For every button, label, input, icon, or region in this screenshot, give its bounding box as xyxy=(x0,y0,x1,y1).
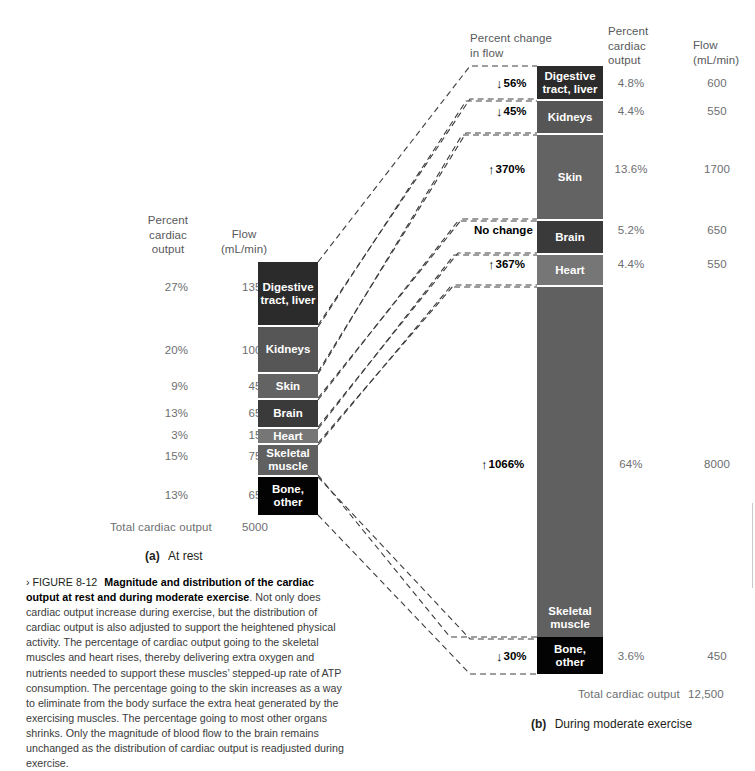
panel-b-change-bone-value: 30% xyxy=(504,650,527,662)
panel-b-flow-digestive: 600 xyxy=(693,77,741,89)
panel-a-segment-bone: Bone, other xyxy=(258,477,318,515)
arrow-down-icon: ↓ xyxy=(496,651,503,662)
panel-a-segment-brain: Brain xyxy=(258,400,318,427)
panel-a-percent-skeletal: 15% xyxy=(128,450,188,462)
panel-b-percent-heart: 4.4% xyxy=(608,258,654,270)
panel-b-flow-skin: 1700 xyxy=(693,163,741,175)
panel-b-total-flow: 12,500 xyxy=(688,688,744,700)
panel-a-percent-heart: 3% xyxy=(128,429,188,441)
panel-b-percent-skeletal: 64% xyxy=(608,458,654,470)
panel-b-change-brain-value: No change xyxy=(474,224,533,236)
panel-b-stacked-bar: Digestive tract, liver Kidneys Skin Brai… xyxy=(537,66,603,674)
panel-b-percent-brain: 5.2% xyxy=(608,224,654,236)
panel-b-change-heart-value: 367% xyxy=(496,258,525,270)
panel-b-segment-heart: Heart xyxy=(537,255,603,285)
panel-b-change-digestive: ↓ 56% xyxy=(496,77,527,89)
panel-b-change-skin: ↑ 370% xyxy=(488,163,525,175)
panel-b-segment-skin: Skin xyxy=(537,135,603,219)
panel-a-percent-kidneys: 20% xyxy=(128,344,188,356)
panel-a-header-percent: Percent cardiac output xyxy=(133,213,203,257)
arrow-up-icon: ↑ xyxy=(488,259,495,270)
figure-body: . Not only does cardiac output increase … xyxy=(26,591,344,769)
figure-caption: › FIGURE 8-12 Magnitude and distribution… xyxy=(26,575,346,771)
panel-b-flow-kidneys: 550 xyxy=(693,105,741,117)
panel-a-segment-skin: Skin xyxy=(258,374,318,398)
panel-b-change-brain: No change xyxy=(474,224,533,236)
panel-b-segment-digestive: Digestive tract, liver xyxy=(537,66,603,99)
panel-b-percent-bone: 3.6% xyxy=(608,650,654,662)
arrow-up-icon: ↑ xyxy=(481,459,488,470)
panel-b-change-bone: ↓ 30% xyxy=(496,650,527,662)
panel-b-percent-kidneys: 4.4% xyxy=(608,105,654,117)
panel-b-change-kidneys-value: 45% xyxy=(504,105,527,117)
panel-b-change-skin-value: 370% xyxy=(496,163,525,175)
panel-b-flow-brain: 650 xyxy=(693,224,741,236)
panel-a-stacked-bar: Digestive tract, liver Kidneys Skin Brai… xyxy=(258,262,318,515)
arrow-down-icon: ↓ xyxy=(496,78,503,89)
panel-b-total-label: Total cardiac output xyxy=(578,688,680,700)
panel-b-segment-kidneys: Kidneys xyxy=(537,101,603,133)
panel-b-header-percent: Percent cardiac output xyxy=(608,24,678,68)
panel-a-total-flow: 5000 xyxy=(206,521,268,533)
panel-a-label: At rest xyxy=(168,549,203,563)
arrow-up-icon: ↑ xyxy=(488,164,495,175)
panel-b-segment-bone: Bone, other xyxy=(537,637,603,674)
figure-number: FIGURE 8-12 xyxy=(33,576,98,588)
panel-b-percent-skin: 13.6% xyxy=(608,163,654,175)
panel-b-flow-heart: 550 xyxy=(693,258,741,270)
panel-a-percent-digestive: 27% xyxy=(128,281,188,293)
panel-a-segment-kidneys: Kidneys xyxy=(258,327,318,372)
panel-b-change-digestive-value: 56% xyxy=(504,77,527,89)
panel-b-change-skeletal-value: 1066% xyxy=(489,458,525,470)
panel-b-segment-brain: Brain xyxy=(537,221,603,253)
panel-a-percent-bone: 13% xyxy=(128,489,188,501)
arrow-down-icon: ↓ xyxy=(496,106,503,117)
panel-b-tag: (b) xyxy=(531,717,546,731)
panel-b-header-change: Percent change in flow xyxy=(470,31,590,60)
panel-a-caption: (a) At rest xyxy=(145,549,203,563)
panel-b-percent-digestive: 4.8% xyxy=(608,77,654,89)
panel-b-change-skeletal: ↑ 1066% xyxy=(481,458,524,470)
panel-b-change-heart: ↑ 367% xyxy=(488,258,525,270)
panel-b-flow-skeletal: 8000 xyxy=(693,458,741,470)
panel-a-tag: (a) xyxy=(145,549,160,563)
panel-b-segment-skeletal: Skeletal muscle xyxy=(537,287,603,637)
panel-a-segment-skeletal: Skeletal muscle xyxy=(258,445,318,475)
panel-a-segment-heart: Heart xyxy=(258,429,318,443)
panel-b-header-flow: Flow (mL/min) xyxy=(693,38,755,67)
panel-a-percent-skin: 9% xyxy=(128,380,188,392)
caption-chevron-icon: › xyxy=(26,576,30,588)
panel-b-flow-bone: 450 xyxy=(693,650,741,662)
panel-a-header-flow: Flow (mL/min) xyxy=(211,227,277,256)
panel-a-total-label: Total cardiac output xyxy=(110,521,212,533)
panel-a-segment-digestive: Digestive tract, liver xyxy=(258,262,318,325)
panel-b-caption: (b) During moderate exercise xyxy=(531,717,692,731)
panel-b-change-kidneys: ↓ 45% xyxy=(496,105,527,117)
panel-b-label: During moderate exercise xyxy=(555,717,692,731)
panel-a-percent-brain: 13% xyxy=(128,407,188,419)
